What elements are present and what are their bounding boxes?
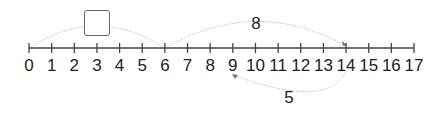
tick-label: 17 — [405, 56, 424, 76]
tick-label: 13 — [314, 56, 333, 76]
tick-label: 11 — [269, 56, 287, 76]
tick-label: 6 — [160, 56, 169, 76]
tick-label: 9 — [228, 56, 237, 76]
jump-label-5: 5 — [284, 88, 293, 108]
tick-label: 1 — [47, 56, 56, 76]
answer-box[interactable] — [84, 10, 110, 36]
tick-label: 12 — [291, 56, 310, 76]
tick-label: 8 — [205, 56, 214, 76]
tick-label: 7 — [183, 56, 192, 76]
jump-label-8: 8 — [251, 14, 260, 34]
tick-label: 2 — [70, 56, 79, 76]
tick-label: 14 — [337, 56, 356, 76]
tick-label: 4 — [115, 56, 124, 76]
tick-label: 5 — [138, 56, 147, 76]
number-line-diagram: 01234567891011121314151617 8 5 — [0, 0, 444, 116]
tick-label: 16 — [382, 56, 401, 76]
tick-label: 0 — [24, 56, 33, 76]
tick-label: 15 — [359, 56, 378, 76]
tick-label: 3 — [92, 56, 101, 76]
tick-label: 10 — [246, 56, 265, 76]
